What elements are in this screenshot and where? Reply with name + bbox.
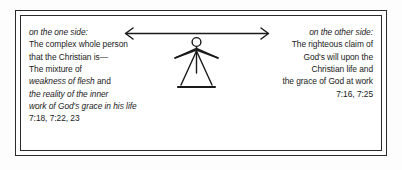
stick-figure-person-icon [175, 38, 218, 87]
diagram-content: on the one side: The complex whole perso… [20, 15, 382, 151]
diagram-canvas: on the one side: The complex whole perso… [0, 0, 402, 170]
figure-leg-left [181, 51, 197, 85]
figure-head-circle [192, 38, 201, 47]
diagram-artwork [20, 15, 382, 151]
figure-leg-right [197, 51, 213, 85]
